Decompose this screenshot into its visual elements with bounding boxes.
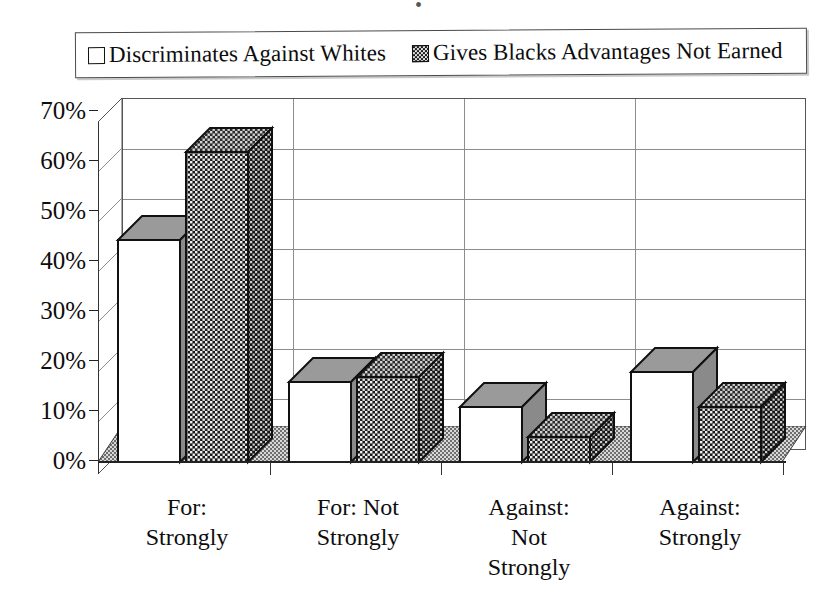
category-label-line: Strongly [283,522,433,552]
category-label-against-strongly: Against: Strongly [625,492,775,552]
category-label-for-not-strongly: For: Not Strongly [283,492,433,552]
cropped-title-remnant: • [0,0,837,12]
chart-legend: Discriminates Against Whites Gives Black… [75,28,807,78]
category-label-against-not-strongly: Against: Not Strongly [454,492,604,582]
legend-label-advantages: Gives Blacks Advantages Not Earned [433,38,783,66]
x-tick-mark-4 [783,462,784,475]
bar-g2-advantages [357,353,443,462]
category-label-line: For: [112,492,262,522]
category-label-line: Strongly [112,522,262,552]
bar-series-layer [0,86,837,486]
legend-label-discriminates: Discriminates Against Whites [109,40,386,68]
category-label-line: Against: [454,492,604,522]
white-square-icon [88,47,105,64]
x-axis-category-labels: For: Strongly For: Not Strongly Against:… [0,492,837,596]
category-label-line: For: Not [283,492,433,522]
category-label-line: Strongly [625,522,775,552]
bar-g1-advantages [186,128,272,462]
x-tick-mark-2 [441,462,442,475]
category-label-line: Not [454,522,604,552]
chart-screenshot: • Discriminates Against Whites Gives Bla… [0,0,837,596]
category-label-line: Strongly [454,552,604,582]
category-label-for-strongly: For: Strongly [112,492,262,552]
category-label-line: Against: [625,492,775,522]
x-tick-mark-1 [270,462,271,475]
x-tick-mark-3 [612,462,613,475]
legend-entry-discriminates: Discriminates Against Whites [88,40,386,68]
chart-plot-region: 70% 60% 50% 40% 30% 20% 10% 0% [0,86,837,486]
legend-entry-advantages: Gives Blacks Advantages Not Earned [412,38,783,66]
bar-g4-advantages [699,383,785,462]
dotted-square-icon [412,45,429,62]
